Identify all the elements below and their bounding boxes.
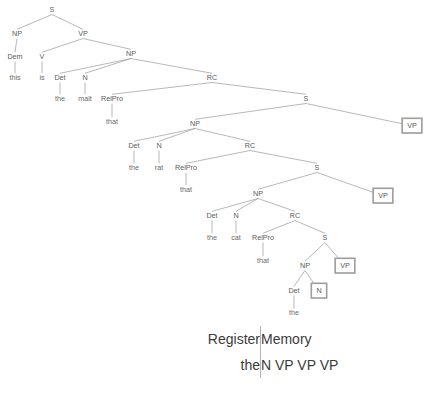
tree-node-nonterminal-np: NP (126, 49, 136, 58)
tree-node-terminal-rat: rat (155, 163, 163, 172)
tree-node-nonterminal-np: NP (300, 261, 310, 270)
tree-branch (52, 15, 83, 30)
tree-node-nonterminal-rc: RC (245, 141, 255, 150)
tree-node-terminal-the: the (289, 308, 299, 317)
tree-node-nonterminal-s: S (323, 233, 328, 242)
memory-value: N VP VP VP (261, 352, 367, 378)
tree-node-terminal-the: the (207, 233, 217, 242)
tree-branch (305, 243, 325, 262)
tree-node-preterminal-n: N (233, 211, 238, 220)
tree-branch (258, 173, 317, 190)
tree-branch (236, 199, 258, 212)
tree-branch (212, 199, 258, 212)
table-row-header: Register Memory (186, 326, 366, 352)
tree-node-nonterminal-s: S (50, 5, 55, 14)
tree-node-preterminal-det: Det (54, 73, 65, 82)
tree-branch (195, 104, 306, 120)
tree-branch (15, 39, 17, 53)
tree-node-nonterminal-rc: RC (290, 211, 300, 220)
tree-node-terminal-this: this (9, 73, 21, 82)
tree-branch (112, 83, 212, 95)
register-memory-table: Register Memory the N VP VP VP (186, 326, 366, 378)
tree-branch (186, 151, 250, 164)
tree-branch (42, 39, 83, 53)
tree-branch (306, 104, 412, 126)
tree-branch (258, 199, 295, 212)
tree-node-terminal-malt: malt (78, 94, 92, 103)
tree-branch (195, 129, 250, 142)
memory-column-header: Memory (261, 326, 367, 352)
tree-node-nonterminal-vp: VP (378, 191, 388, 200)
tree-node-terminal-is: is (39, 73, 45, 82)
tree-node-nonterminal-vp: VP (407, 121, 417, 130)
tree-branch (294, 271, 305, 287)
tree-branch (60, 59, 131, 74)
tree-node-preterminal-v: V (40, 52, 45, 61)
tree-node-terminal-the: the (129, 163, 139, 172)
tree-node-preterminal-relpro: RelPro (252, 233, 274, 242)
tree-branch (17, 15, 52, 30)
tree-node-preterminal-det: Det (288, 286, 299, 295)
tree-node-nonterminal-np: NP (12, 29, 22, 38)
tree-node-preterminal-dem: Dem (7, 52, 22, 61)
tree-node-terminal-that: that (106, 117, 118, 126)
tree-node-nonterminal-np: NP (253, 189, 263, 198)
tree-node-preterminal-n: N (82, 73, 87, 82)
tree-node-terminal-that: that (180, 185, 192, 194)
tree-branch (83, 39, 131, 50)
tree-node-preterminal-n: N (316, 286, 321, 295)
tree-node-terminal-cat: cat (231, 233, 241, 242)
tree-node-preterminal-n: N (156, 141, 161, 150)
tree-node-nonterminal-vp: VP (78, 29, 88, 38)
tree-branch (212, 83, 306, 95)
tree-node-terminal-the: the (55, 94, 65, 103)
tree-branch (131, 59, 212, 74)
tree-branch (250, 151, 317, 164)
tree-branch (263, 221, 295, 234)
tree-node-nonterminal-vp: VP (340, 261, 350, 270)
tree-node-preterminal-relpro: RelPro (101, 94, 123, 103)
tree-branch (85, 59, 131, 74)
tree-node-nonterminal-s: S (315, 163, 320, 172)
tree-node-preterminal-det: Det (128, 141, 139, 150)
register-column-header: Register (186, 326, 261, 352)
tree-node-layer: SNPVPDemthisVisNPDettheNmaltRCRelProthat… (7, 5, 421, 317)
tree-branch (295, 221, 325, 234)
tree-node-terminal-that: that (257, 256, 269, 265)
tree-node-nonterminal-rc: RC (207, 73, 217, 82)
tree-node-preterminal-det: Det (206, 211, 217, 220)
tree-node-nonterminal-np: NP (190, 119, 200, 128)
tree-node-nonterminal-s: S (304, 94, 309, 103)
table-row-values: the N VP VP VP (186, 352, 366, 378)
register-value: the (186, 352, 261, 378)
tree-node-preterminal-relpro: RelPro (175, 163, 197, 172)
